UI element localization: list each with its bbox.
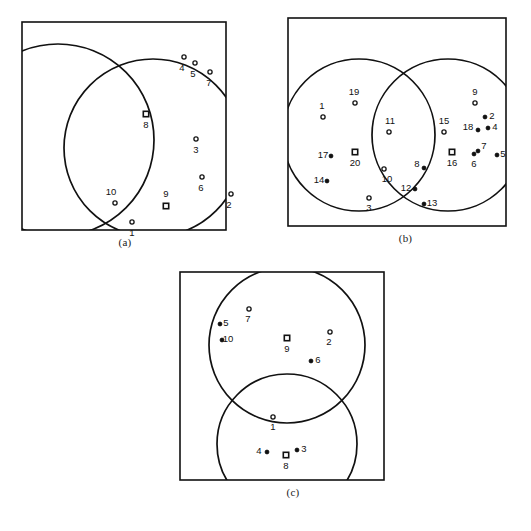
panel-caption-a: (a) (0, 236, 250, 248)
centroid-marker[interactable] (352, 149, 357, 154)
data-point-marker[interactable] (382, 167, 386, 171)
data-point-label: 6 (315, 354, 320, 365)
data-point-marker[interactable] (472, 152, 476, 156)
data-point-marker[interactable] (321, 115, 325, 119)
data-point-marker[interactable] (486, 126, 490, 130)
data-point-marker[interactable] (422, 166, 426, 170)
data-point-marker[interactable] (325, 179, 329, 183)
figure-root: 12345761089(a)11911159241857617141081213… (0, 0, 531, 531)
data-point-label: 2 (489, 110, 494, 121)
panel-c-centroids: 98 (283, 335, 289, 471)
centroid-label: 20 (350, 157, 361, 168)
data-point-marker[interactable] (495, 153, 499, 157)
data-point-label: 3 (366, 202, 371, 213)
data-point-label: 7 (206, 77, 211, 88)
data-point-label: 4 (492, 121, 497, 132)
data-point-label: 7 (245, 313, 250, 324)
data-point-label: 6 (198, 182, 203, 193)
data-point-label: 1 (319, 100, 324, 111)
data-point-marker[interactable] (476, 149, 480, 153)
data-point-marker[interactable] (442, 130, 446, 134)
panel-a-circle-1 (0, 44, 154, 236)
data-point-label: 15 (439, 115, 450, 126)
data-point-marker[interactable] (483, 115, 487, 119)
data-point-label: 10 (106, 186, 117, 197)
panel-b-canvas: 1191115924185761714108121332016 (280, 0, 531, 258)
data-point-label: 10 (382, 173, 393, 184)
data-point-marker[interactable] (271, 415, 275, 419)
panel-a-frame (22, 22, 226, 230)
data-point-label: 5 (223, 317, 228, 328)
panel-b-circle-right (372, 59, 524, 211)
data-point-marker[interactable] (476, 128, 480, 132)
panel-b-circle-left (283, 59, 435, 211)
data-point-marker[interactable] (113, 201, 117, 205)
data-point-label: 8 (414, 158, 419, 169)
centroid-label: 9 (163, 188, 168, 199)
data-point-label: 19 (349, 86, 360, 97)
data-point-label: 7 (481, 140, 486, 151)
data-point-marker[interactable] (247, 307, 251, 311)
centroid-label: 16 (447, 157, 458, 168)
panel-caption-c: (c) (173, 486, 413, 498)
panel-a: 12345761089(a) (0, 0, 250, 258)
data-point-marker[interactable] (229, 192, 233, 196)
data-point-label: 14 (314, 174, 325, 185)
data-point-marker[interactable] (422, 202, 426, 206)
data-point-marker[interactable] (182, 55, 186, 59)
centroid-label: 8 (143, 119, 148, 130)
panel-caption-b: (b) (280, 232, 531, 244)
data-point-marker[interactable] (473, 101, 477, 105)
data-point-marker[interactable] (353, 101, 357, 105)
data-point-label: 9 (472, 86, 477, 97)
panel-b-points: 119111592418576171410812133 (314, 86, 506, 213)
data-point-marker[interactable] (194, 137, 198, 141)
centroid-marker[interactable] (143, 111, 148, 116)
panel-b: 1191115924185761714108121332016(b) (280, 0, 531, 258)
centroid-label: 9 (284, 343, 289, 354)
panel-c-points: 751026143 (218, 307, 332, 456)
data-point-label: 5 (500, 148, 505, 159)
data-point-marker[interactable] (329, 154, 333, 158)
data-point-marker[interactable] (387, 130, 391, 134)
data-point-label: 5 (190, 68, 195, 79)
data-point-label: 6 (471, 158, 476, 169)
data-point-marker[interactable] (265, 450, 269, 454)
data-point-label: 10 (223, 333, 234, 344)
data-point-label: 2 (226, 199, 231, 210)
data-point-marker[interactable] (193, 61, 197, 65)
panel-b-centroids: 2016 (350, 149, 458, 168)
data-point-marker[interactable] (309, 359, 313, 363)
data-point-marker[interactable] (200, 175, 204, 179)
data-point-label: 17 (318, 149, 329, 160)
centroid-label: 8 (283, 460, 288, 471)
data-point-label: 4 (179, 62, 184, 73)
data-point-marker[interactable] (328, 330, 332, 334)
data-point-label: 11 (385, 115, 395, 126)
centroid-marker[interactable] (163, 203, 168, 208)
data-point-label: 18 (463, 121, 474, 132)
data-point-label: 3 (193, 144, 198, 155)
panel-b-frame (288, 18, 506, 226)
data-point-label: 4 (256, 445, 261, 456)
data-point-label: 12 (401, 182, 412, 193)
data-point-label: 3 (301, 443, 306, 454)
panel-a-circles (0, 44, 242, 237)
data-point-marker[interactable] (218, 322, 222, 326)
data-point-marker[interactable] (413, 187, 417, 191)
data-point-label: 1 (270, 421, 275, 432)
centroid-marker[interactable] (284, 335, 289, 340)
panel-a-centroids: 89 (143, 111, 168, 208)
data-point-label: 13 (427, 197, 438, 208)
panel-c: 75102614398(c) (173, 262, 413, 527)
data-point-label: 2 (326, 336, 331, 347)
panel-c-circles (209, 267, 365, 514)
panel-a-canvas: 12345761089 (0, 0, 250, 258)
data-point-marker[interactable] (208, 70, 212, 74)
data-point-marker[interactable] (130, 220, 134, 224)
data-point-marker[interactable] (367, 196, 371, 200)
centroid-marker[interactable] (283, 452, 288, 457)
data-point-marker[interactable] (295, 448, 299, 452)
centroid-marker[interactable] (449, 149, 454, 154)
